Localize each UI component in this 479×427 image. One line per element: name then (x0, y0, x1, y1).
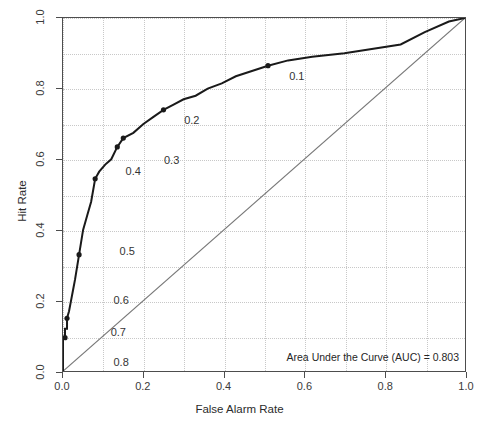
x-axis-tick-label: 0.2 (135, 380, 150, 392)
threshold-label: 0.2 (184, 114, 199, 126)
plot-area: 0.10.20.30.40.50.60.70.8 Area Under the … (62, 17, 466, 372)
x-axis-tick (385, 372, 386, 378)
y-axis-tick-label: 0.8 (34, 76, 46, 100)
threshold-point-labels: 0.10.20.30.40.50.60.70.8 (63, 18, 465, 371)
y-axis-tick (56, 230, 62, 231)
y-axis-tick-label: 0.6 (34, 147, 46, 171)
x-axis-tick (304, 372, 305, 378)
y-axis-title: Hit Rate (16, 151, 28, 251)
y-axis-tick-label: 1.0 (34, 5, 46, 29)
x-axis-tick (224, 372, 225, 378)
chart-title-fragment (0, 0, 479, 10)
y-axis-tick (56, 88, 62, 89)
x-axis-tick-label: 1.0 (458, 380, 473, 392)
y-axis-tick (56, 301, 62, 302)
roc-chart: 0.10.20.30.40.50.60.70.8 Area Under the … (0, 0, 479, 427)
x-axis-tick-label: 0.0 (54, 380, 69, 392)
y-axis-tick-label: 0.0 (34, 360, 46, 384)
threshold-label: 0.3 (164, 154, 179, 166)
threshold-label: 0.1 (289, 70, 304, 82)
x-axis-tick (466, 372, 467, 378)
y-axis-tick (56, 159, 62, 160)
threshold-label: 0.4 (126, 165, 141, 177)
y-axis-tick (56, 17, 62, 18)
threshold-label: 0.5 (120, 245, 135, 257)
threshold-label: 0.7 (111, 326, 126, 338)
x-axis-tick-label: 0.8 (378, 380, 393, 392)
y-axis-tick-label: 0.4 (34, 218, 46, 242)
x-axis-tick (62, 372, 63, 378)
y-axis-tick (56, 372, 62, 373)
threshold-label: 0.8 (114, 356, 129, 368)
auc-annotation: Area Under the Curve (AUC) = 0.803 (287, 351, 459, 363)
threshold-label: 0.6 (114, 294, 129, 306)
y-axis-tick-label: 0.2 (34, 289, 46, 313)
x-axis-tick-label: 0.4 (216, 380, 231, 392)
x-axis-tick (143, 372, 144, 378)
x-axis-tick-label: 0.6 (297, 380, 312, 392)
x-axis-title: False Alarm Rate (0, 403, 479, 415)
